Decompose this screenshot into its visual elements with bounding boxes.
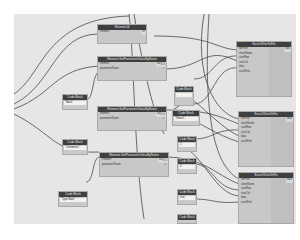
code-block-mid-3[interactable]: Code Block 1; — [177, 136, 197, 152]
graph-canvas[interactable]: Element.Id element> int Element.GetParam… — [14, 14, 296, 224]
node-title: Code Block — [178, 190, 196, 195]
code-input[interactable]: "Type Mark"; — [60, 198, 86, 202]
node-title: Code Block — [178, 159, 196, 164]
code-block-left-3[interactable]: Code Block "Type Mark"; — [58, 191, 88, 207]
code-input[interactable]: "Comments"; — [64, 146, 86, 150]
output-port[interactable]: int — [141, 30, 146, 35]
code-block-mid-2[interactable]: Code Block "Sheet1"; — [172, 110, 200, 126]
node-get-parameter-2[interactable]: Element.GetParameterValueByName element>… — [97, 106, 167, 131]
input-port[interactable]: overWrite — [237, 70, 291, 75]
code-input[interactable] — [176, 93, 192, 97]
code-block-mid-6[interactable]: Code Block — [177, 214, 197, 224]
code-input[interactable]: "Sheet1"; — [174, 117, 198, 121]
node-title: Code Block — [178, 215, 196, 220]
input-port[interactable]: parameterName> — [98, 117, 166, 122]
node-title: Code Block — [59, 192, 87, 197]
code-block-left-1[interactable]: Code Block "Mark"; — [62, 94, 88, 110]
output-port[interactable]: var[]..[] — [158, 158, 168, 163]
input-port[interactable]: parameterName> — [100, 163, 168, 168]
node-get-parameter-1[interactable]: Element.GetParameterValueByName element>… — [97, 56, 167, 81]
output-port[interactable]: data — [284, 47, 291, 52]
output-port[interactable]: var[]..[] — [156, 112, 166, 117]
input-port[interactable]: element> — [98, 30, 146, 35]
node-get-parameter-3[interactable]: Element.GetParameterValueByName element>… — [99, 152, 169, 177]
node-excel-write-2[interactable]: Excel.WriteToFile filePath sheetName sta… — [238, 111, 294, 167]
node-title: Code Block — [173, 111, 199, 116]
node-title: Code Block — [175, 87, 193, 92]
code-block-left-2[interactable]: Code Block "Comments"; — [62, 139, 88, 155]
node-title: Code Block — [63, 140, 87, 145]
output-port[interactable]: data — [286, 178, 293, 183]
code-input[interactable]: true; — [179, 196, 195, 200]
node-element-id[interactable]: Element.Id element> int — [97, 24, 147, 44]
code-input[interactable]: "Mark"; — [64, 101, 86, 105]
node-excel-write-3[interactable]: Excel.WriteToFile filePath sheetName sta… — [238, 172, 294, 224]
input-port[interactable]: overWrite — [239, 140, 293, 145]
code-input[interactable]: 1; — [179, 143, 195, 147]
node-title: Code Block — [63, 95, 87, 100]
node-title: Code Block — [178, 137, 196, 142]
code-block-mid-4[interactable]: Code Block 0; — [177, 158, 197, 174]
output-port[interactable]: data — [286, 117, 293, 122]
code-input[interactable]: 0; — [179, 165, 195, 169]
input-port[interactable]: parameterName> — [98, 67, 166, 72]
input-port[interactable]: overWrite — [239, 201, 293, 206]
code-block-mid-5[interactable]: Code Block true; — [177, 189, 197, 205]
output-port[interactable]: var[]..[] — [156, 62, 166, 67]
node-excel-write-1[interactable]: Excel.WriteToFile filePath sheetName sta… — [236, 41, 292, 97]
code-block-mid-1[interactable]: Code Block — [174, 86, 194, 106]
